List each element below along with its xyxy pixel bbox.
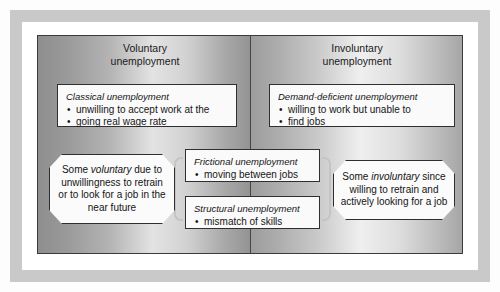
box-structural-bullet-1: mismatch of skills [204, 216, 312, 228]
column-header-involuntary-line2: unemployment [272, 55, 442, 68]
box-structural-unemployment: Structural unemployment mismatch of skil… [185, 196, 320, 229]
callout-involuntary-text-before: Some [342, 171, 371, 182]
box-classical-bullets: unwilling to accept work at the going re… [66, 104, 229, 128]
bracket-right-icon [322, 157, 331, 221]
callout-voluntary-emphasis: voluntary [91, 164, 132, 175]
box-demand-deficient-title: Demand-deficient unemployment [278, 91, 447, 103]
column-header-voluntary-line1: Voluntary [60, 42, 230, 55]
diagram-panel: Voluntary unemployment Involuntary unemp… [37, 35, 463, 254]
box-structural-title: Structural unemployment [194, 203, 312, 215]
box-demand-deficient-bullet-1: willing to work but unable to [288, 104, 447, 116]
box-demand-deficient-bullets: willing to work but unable to find jobs [278, 104, 447, 128]
callout-involuntary: Some involuntary since willing to retrai… [333, 160, 455, 220]
box-frictional-bullets: moving between jobs [194, 169, 312, 181]
box-demand-deficient-unemployment: Demand-deficient unemployment willing to… [269, 84, 455, 127]
box-classical-bullet-1-cont: going real wage rate [76, 116, 229, 128]
box-demand-deficient-bullet-1-cont: find jobs [288, 116, 447, 128]
column-header-involuntary-line1: Involuntary [272, 42, 442, 55]
column-header-voluntary: Voluntary unemployment [60, 42, 230, 68]
box-classical-title: Classical unemployment [66, 91, 229, 103]
column-header-voluntary-line2: unemployment [60, 55, 230, 68]
callout-voluntary: Some voluntary due to unwillingness to r… [49, 154, 175, 224]
callout-voluntary-text-before: Some [62, 164, 91, 175]
bracket-left-icon [174, 157, 183, 221]
callout-involuntary-text: Some involuntary since willing to retrai… [334, 171, 454, 209]
box-classical-bullet-1: unwilling to accept work at the [76, 104, 229, 116]
box-frictional-title: Frictional unemployment [194, 156, 312, 168]
box-structural-bullets: mismatch of skills [194, 216, 312, 228]
unemployment-classification-figure: Voluntary unemployment Involuntary unemp… [0, 0, 500, 292]
box-frictional-unemployment: Frictional unemployment moving between j… [185, 149, 320, 182]
box-frictional-bullet-1: moving between jobs [204, 169, 312, 181]
callout-involuntary-emphasis: involuntary [371, 171, 419, 182]
box-classical-unemployment: Classical unemployment unwilling to acce… [57, 84, 237, 127]
column-header-involuntary: Involuntary unemployment [272, 42, 442, 68]
callout-voluntary-text: Some voluntary due to unwillingness to r… [50, 164, 174, 214]
